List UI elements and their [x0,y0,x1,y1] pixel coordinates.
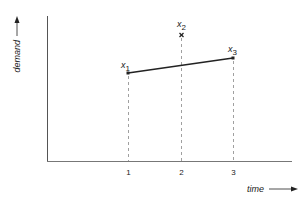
arrow-up-icon [15,16,20,36]
point-label-x2: x2 [176,19,187,32]
tick-label-1: 1 [126,168,131,177]
point-label-x3: x3 [227,44,238,57]
trend-line-x1-x3 [128,58,233,73]
tick-label-3: 3 [231,168,236,177]
point-label-x1: x1 [120,60,131,73]
demand-time-diagram: x1 x2 x3 1 2 3 time demand [0,0,303,206]
y-axis-label: demand [12,39,22,73]
point-x2-cross [180,33,184,37]
tick-label-2: 2 [179,168,184,177]
arrow-right-icon [269,187,298,192]
x-axis-label: time [247,184,264,194]
